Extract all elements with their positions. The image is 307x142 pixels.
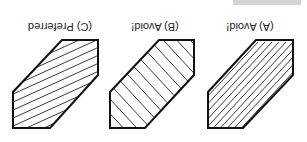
shape-preferred <box>0 26 110 142</box>
hatching-diagram: (C) Preferred (B) Avoid! (A) Avoid! <box>0 0 307 142</box>
shape-avoid-a <box>137 40 307 142</box>
hatched-shapes <box>0 0 307 142</box>
